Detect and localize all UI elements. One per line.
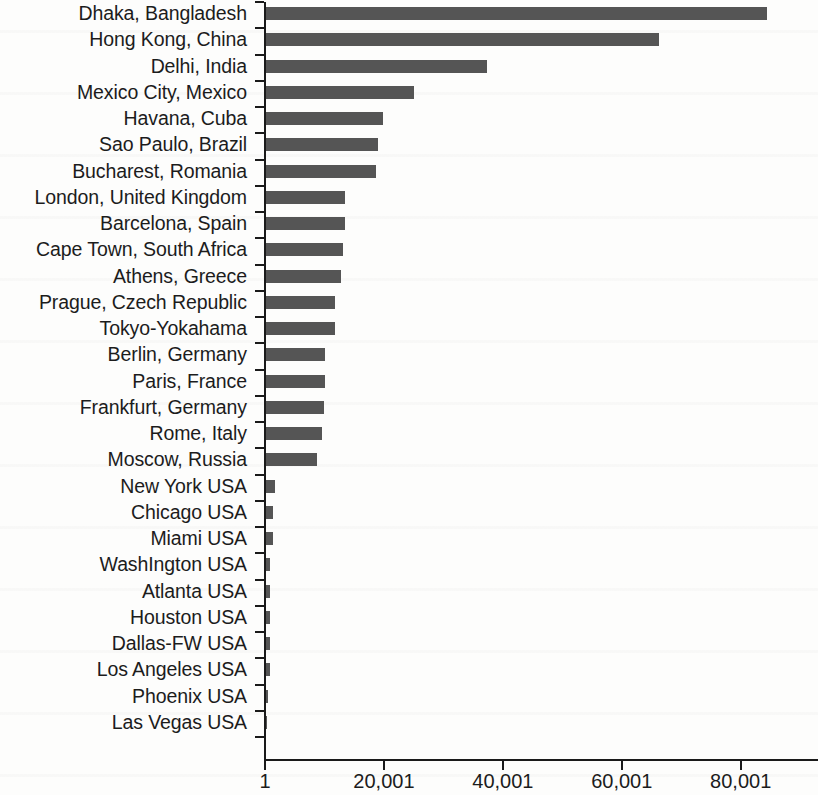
- bar: [265, 453, 317, 466]
- y-axis-line: [264, 2, 266, 760]
- y-axis-tick: [255, 290, 264, 292]
- y-axis-tick: [255, 264, 264, 266]
- bar: [265, 138, 378, 151]
- x-axis-line: [264, 759, 818, 761]
- bar: [265, 296, 335, 309]
- bar: [265, 375, 325, 388]
- y-axis-tick: [255, 631, 264, 633]
- y-axis-tick: [255, 27, 264, 29]
- category-label: Houston USA: [0, 607, 247, 627]
- x-axis-tick: [502, 761, 504, 770]
- bar: [265, 270, 341, 283]
- x-axis-tick-label: 1: [259, 770, 270, 792]
- y-axis-tick: [255, 395, 264, 397]
- x-axis-tick-label: 60,001: [591, 770, 652, 792]
- bar: [265, 33, 659, 46]
- x-axis-tick-label: 40,001: [472, 770, 533, 792]
- bar: [265, 532, 273, 545]
- category-label: Cape Town, South Africa: [0, 239, 247, 259]
- plot-area: [265, 0, 818, 760]
- category-label: Barcelona, Spain: [0, 213, 247, 233]
- x-axis-tick-label: 20,001: [353, 770, 414, 792]
- y-axis-tick: [255, 316, 264, 318]
- y-axis-tick: [255, 369, 264, 371]
- y-axis-tick: [255, 500, 264, 502]
- y-axis-tick: [255, 605, 264, 607]
- category-label: WashIngton USA: [0, 554, 247, 574]
- category-label: Hong Kong, China: [0, 29, 247, 49]
- bar: [265, 191, 345, 204]
- category-label: Dhaka, Bangladesh: [0, 3, 247, 23]
- bar: [265, 243, 343, 256]
- y-axis-tick: [255, 657, 264, 659]
- category-label: Sao Paulo, Brazil: [0, 134, 247, 154]
- y-axis-tick: [255, 185, 264, 187]
- y-axis-tick: [255, 736, 264, 738]
- bar: [265, 506, 273, 519]
- bar: [265, 165, 376, 178]
- category-label: Atlanta USA: [0, 581, 247, 601]
- y-axis-tick: [255, 211, 264, 213]
- category-label: Athens, Greece: [0, 266, 247, 286]
- category-label: Los Angeles USA: [0, 659, 247, 679]
- category-axis-labels: Dhaka, BangladeshHong Kong, ChinaDelhi, …: [0, 0, 255, 760]
- y-axis-tick: [255, 552, 264, 554]
- category-label: Phoenix USA: [0, 686, 247, 706]
- x-axis-tick: [264, 761, 266, 770]
- y-axis-tick: [255, 526, 264, 528]
- category-label: Havana, Cuba: [0, 108, 247, 128]
- x-axis-tick-label: 80,001: [710, 770, 771, 792]
- y-axis-tick: [255, 342, 264, 344]
- category-label: Miami USA: [0, 528, 247, 548]
- bar: [265, 217, 345, 230]
- y-axis-tick: [255, 106, 264, 108]
- category-label: Delhi, India: [0, 56, 247, 76]
- y-axis-tick: [255, 54, 264, 56]
- category-label: Rome, Italy: [0, 423, 247, 443]
- category-label: Mexico City, Mexico: [0, 82, 247, 102]
- x-axis-tick: [383, 761, 385, 770]
- category-label: London, United Kingdom: [0, 187, 247, 207]
- y-axis-tick: [255, 684, 264, 686]
- bar: [265, 7, 767, 20]
- category-label: New York USA: [0, 476, 247, 496]
- bar-chart: Dhaka, BangladeshHong Kong, ChinaDelhi, …: [0, 0, 818, 795]
- bar: [265, 480, 275, 493]
- y-axis-tick: [255, 1, 264, 3]
- y-axis-tick: [255, 474, 264, 476]
- y-axis-tick: [255, 421, 264, 423]
- x-axis-tick: [740, 761, 742, 770]
- category-label: Bucharest, Romania: [0, 161, 247, 181]
- category-label: Dallas-FW USA: [0, 633, 247, 653]
- y-axis-tick: [255, 579, 264, 581]
- category-label: Tokyo-Yokahama: [0, 318, 247, 338]
- bar: [265, 427, 322, 440]
- category-label: Las Vegas USA: [0, 712, 247, 732]
- bar: [265, 86, 414, 99]
- category-label: Berlin, Germany: [0, 344, 247, 364]
- category-label: Prague, Czech Republic: [0, 292, 247, 312]
- x-axis-tick: [621, 761, 623, 770]
- y-axis-tick: [255, 159, 264, 161]
- y-axis-tick: [255, 710, 264, 712]
- bar: [265, 112, 383, 125]
- category-label: Chicago USA: [0, 502, 247, 522]
- category-label: Moscow, Russia: [0, 449, 247, 469]
- y-axis-tick: [255, 132, 264, 134]
- category-label: Paris, France: [0, 371, 247, 391]
- bar: [265, 401, 324, 414]
- category-label: Frankfurt, Germany: [0, 397, 247, 417]
- y-axis-tick: [255, 80, 264, 82]
- y-axis-tick: [255, 447, 264, 449]
- bar: [265, 322, 335, 335]
- bar: [265, 348, 325, 361]
- bar: [265, 60, 487, 73]
- y-axis-tick: [255, 237, 264, 239]
